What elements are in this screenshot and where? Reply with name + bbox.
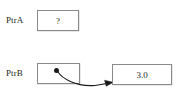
memory-cell-target-value: 3.0 xyxy=(112,64,172,85)
pointer-diagram: PtrA ? PtrB 3.0 xyxy=(0,0,178,99)
memory-cell-ptra-value: ? xyxy=(38,16,78,26)
variable-label-ptrb: PtrB xyxy=(6,68,23,79)
pointer-dot-icon xyxy=(54,68,59,73)
memory-cell-ptra: ? xyxy=(37,10,79,31)
memory-cell-ptrb xyxy=(37,63,80,84)
memory-cell-target-value-text: 3.0 xyxy=(113,70,171,80)
variable-label-ptra: PtrA xyxy=(6,15,23,26)
